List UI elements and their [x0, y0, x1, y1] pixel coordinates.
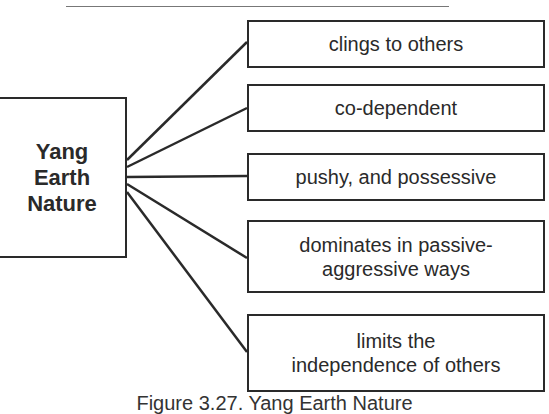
- trait-box-pushy: pushy, and possessive: [247, 153, 545, 201]
- connector-1: [127, 42, 247, 160]
- central-label-line-1: Yang: [27, 139, 97, 165]
- trait-box-limits: limits the independence of others: [247, 314, 545, 392]
- figure-caption: Figure 3.27. Yang Earth Nature: [0, 392, 549, 414]
- trait-label-line-2: independence of others: [291, 353, 500, 377]
- connector-3: [127, 176, 247, 177]
- central-label-line-2: Earth: [27, 165, 97, 191]
- trait-label-line-1: limits the: [291, 329, 500, 353]
- connector-5: [127, 192, 247, 352]
- trait-box-dominates: dominates in passive- aggressive ways: [247, 220, 545, 293]
- trait-label-line-2: aggressive ways: [299, 257, 492, 281]
- trait-box-co-dependent: co-dependent: [247, 84, 545, 132]
- trait-label: co-dependent: [335, 96, 457, 120]
- trait-box-clings: clings to others: [247, 20, 545, 68]
- connector-2: [127, 108, 247, 167]
- trait-label-line-1: dominates in passive-: [299, 233, 492, 257]
- trait-label: clings to others: [329, 32, 464, 56]
- trait-label: pushy, and possessive: [296, 165, 497, 189]
- connector-4: [127, 184, 247, 258]
- central-label-line-3: Nature: [27, 191, 97, 217]
- central-concept-box: Yang Earth Nature: [0, 97, 127, 258]
